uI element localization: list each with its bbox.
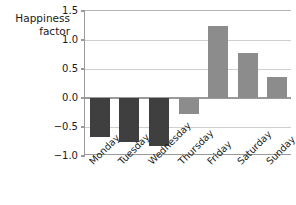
y-axis-tick-label: 1.5 [38,5,78,16]
y-axis-tick-label: 0.5 [38,63,78,74]
bar [267,77,287,98]
bar [238,53,258,98]
bar [208,26,228,98]
bar [179,98,199,114]
y-axis-tick-label: 1.0 [38,34,78,45]
y-axis-tick-label: −0.5 [38,121,78,132]
y-axis-tick-label: −1.0 [38,150,78,161]
y-axis-tick-label: 0.0 [38,92,78,103]
bar-chart: Happiness factor 1.51.00.50.0−0.5−1.0 Mo… [0,0,296,205]
x-axis-tick-labels: MondayTuesdayWednesdayThursdayFridaySatu… [84,157,291,205]
bar [119,98,139,142]
bar [90,98,110,137]
